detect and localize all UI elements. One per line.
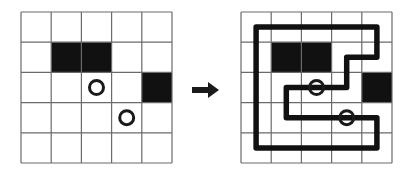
diagram-canvas: [0, 0, 410, 178]
puzzle-diagram: [0, 0, 410, 178]
circle-marker: [120, 111, 134, 125]
arrow-head: [208, 82, 219, 98]
black-cell: [362, 72, 392, 102]
puzzle-grid-unsolved: [21, 12, 172, 163]
black-cell: [142, 72, 172, 102]
black-cell: [81, 42, 111, 72]
circle-marker: [90, 81, 104, 95]
black-cell: [51, 42, 81, 72]
puzzle-grid-solved: [241, 12, 392, 163]
black-cell: [301, 42, 331, 72]
arrow-shaft: [192, 87, 210, 93]
right-arrow-icon: [192, 82, 219, 98]
black-cell: [271, 42, 301, 72]
